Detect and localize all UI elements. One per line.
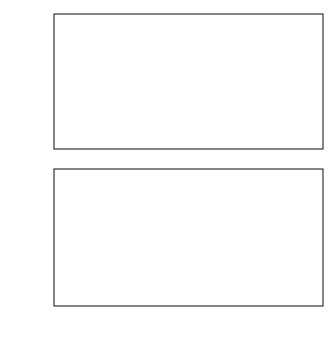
depth-frame [54,169,323,306]
heat-flux-frame [54,14,323,149]
figure [0,0,334,349]
depth-panel [54,169,323,306]
heat-flux-panel [25,14,323,149]
